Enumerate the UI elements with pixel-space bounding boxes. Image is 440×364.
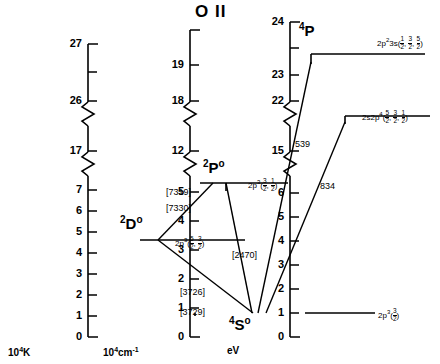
axis-K-break-1 [82,152,94,176]
axis-eV-name: eV [227,346,239,356]
config-2s2p4: 2s2p4(52, 32, 12) [362,110,408,124]
axis-eV-tick-2: 2 [258,283,284,294]
transition-label-7330: [7330] [166,204,191,213]
transition-label-2470: [2470] [232,251,257,260]
axis-K-tick-26: 26 [50,95,82,106]
config-2Do: 2p3(52, 32) [175,236,204,250]
transition-label-834: 834 [320,182,335,191]
config-2Po: 2p3(32, 12) [248,178,277,192]
transition-label-7319: [7319] [166,188,191,197]
term-label-2Do: 2Do [120,215,143,231]
axis-K-tick-5: 5 [56,226,82,237]
transition-label-3729: [3729] [180,308,205,317]
axis-cm-name: 104cm-1 [103,346,139,358]
axis-eV-tick-0: 0 [258,331,284,342]
axis-cm-tick-19: 19 [152,59,184,70]
axis-eV-tick-4: 4 [258,235,284,246]
axis-eV-tick-22: 22 [252,95,284,106]
axis-cm-tick-18: 18 [152,95,184,106]
config-4P: 2p23s(12, 32, 52) [377,36,423,50]
axis-cm-tick-2: 2 [158,273,184,284]
axis-K-tick-3: 3 [56,268,82,279]
axis-cm-break-2 [184,102,196,126]
axis-K-tick-1: 1 [56,310,82,321]
axis-K-tick-0: 0 [56,331,82,342]
config-4So: 2p3(32) [378,308,399,322]
axis-K-name: 104K [8,346,30,358]
axis-eV-tick-15: 15 [252,145,284,156]
axis-cm-tick-12: 12 [152,145,184,156]
term-label-4So: 4So [229,316,251,332]
axis-cm-tick-0: 0 [158,331,184,342]
axis-K-break-2 [82,102,94,126]
axis-eV-tick-24: 24 [252,16,284,27]
grotrian-diagram: O II [0,0,440,364]
axis-K-tick-17: 17 [50,145,82,156]
axis-eV-tick-5: 5 [258,211,284,222]
axis-K-tick-27: 27 [50,38,82,49]
transition-label-539: 539 [295,140,310,149]
axis-K-tick-7: 7 [56,184,82,195]
axis-eV-tick-3: 3 [258,259,284,270]
axis-eV-break-2 [284,102,296,126]
axis-cm-break-1 [184,152,196,176]
axis-K-tick-6: 6 [56,205,82,216]
term-label-4P: 4P [299,22,315,38]
term-label-2Po: 2Po [203,159,225,175]
axis-cm-tick-4: 4 [158,215,184,226]
axis-K-tick-4: 4 [56,247,82,258]
axis-K-tick-2: 2 [56,289,82,300]
transition-label-3726: [3726] [180,288,205,297]
axis-eV-tick-1: 1 [258,307,284,318]
axis-eV-tick-23: 23 [252,69,284,80]
transition-2470 [226,183,252,313]
